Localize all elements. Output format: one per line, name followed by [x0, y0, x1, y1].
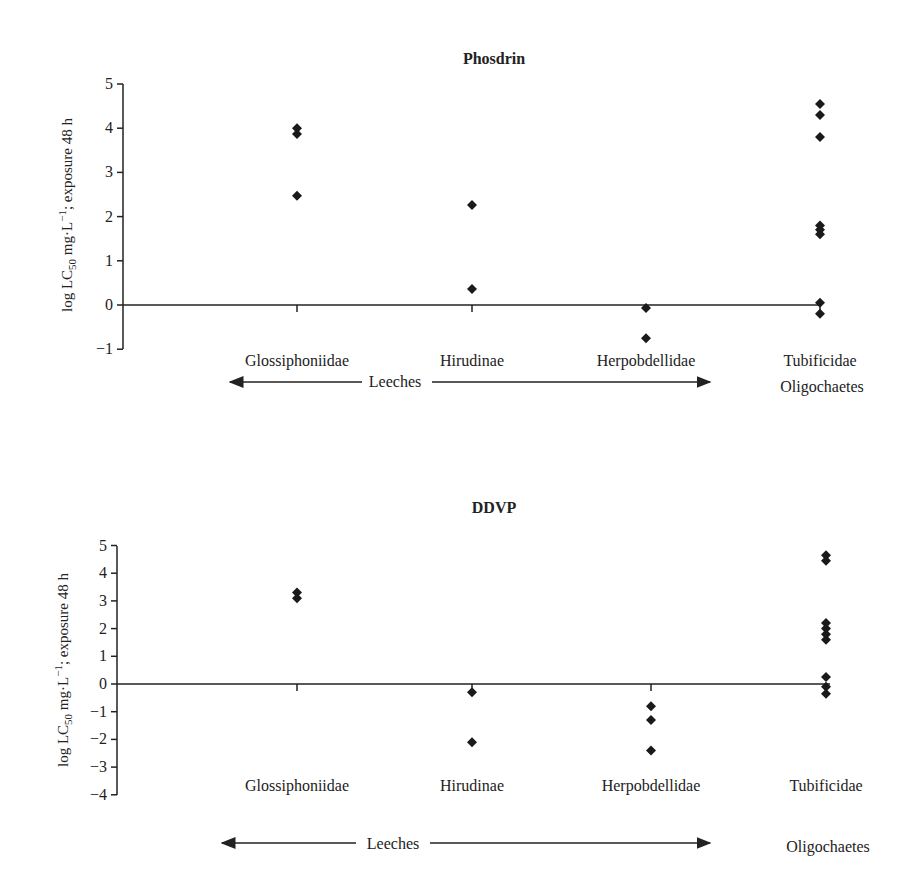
category-label: Hirudinae: [440, 352, 504, 369]
diamond-marker-icon: [815, 110, 825, 120]
y-tick-label: 3: [105, 163, 113, 180]
group-label-oligochaetes: Oligochaetes: [780, 378, 864, 396]
chart-title: Phosdrin: [463, 50, 525, 67]
diamond-marker-icon: [821, 556, 831, 566]
y-tick-label: 5: [99, 537, 107, 554]
diamond-marker-icon: [292, 129, 302, 139]
category-label: Tubificidae: [783, 352, 856, 369]
y-tick-label: 0: [105, 296, 113, 313]
y-tick-label: 1: [99, 647, 107, 664]
group-label-oligochaetes: Oligochaetes: [786, 838, 870, 856]
diamond-marker-icon: [821, 672, 831, 682]
y-tick-label: −4: [90, 786, 107, 803]
diamond-marker-icon: [292, 191, 302, 201]
diamond-marker-icon: [467, 284, 477, 294]
category-labels: GlossiphoniidaeHirudinaeHerpobdellidaeTu…: [245, 684, 863, 795]
y-tick-label: 1: [105, 252, 113, 269]
chart-phosdrin: Phosdrin log LC50 mg·L−1; exposure 48 h …: [56, 50, 864, 396]
diamond-marker-icon: [815, 309, 825, 319]
y-tick-label: 3: [99, 592, 107, 609]
y-tick-label: −3: [90, 758, 107, 775]
diamond-marker-icon: [641, 333, 651, 343]
y-tick-label: 2: [99, 620, 107, 637]
y-axis-label: log LC50 mg·L−1; exposure 48 h: [56, 118, 78, 312]
y-axis-ticks: 543210−1−2−3−4: [90, 537, 117, 803]
y-tick-label: −1: [90, 703, 107, 720]
y-tick-label: −1: [96, 340, 113, 357]
diamond-marker-icon: [646, 715, 656, 725]
svg-text:log LC50 mg·L−1; exposure 48 h: log LC50 mg·L−1; exposure 48 h: [52, 573, 74, 767]
y-tick-label: 4: [99, 564, 107, 581]
diamond-marker-icon: [467, 687, 477, 697]
y-tick-label: 5: [105, 75, 113, 92]
category-label: Herpobdellidae: [597, 352, 696, 370]
diamond-marker-icon: [646, 745, 656, 755]
y-axis-ticks: 543210−1: [96, 75, 123, 357]
y-tick-label: 2: [105, 208, 113, 225]
y-tick-label: 4: [105, 119, 113, 136]
category-label: Tubificidae: [789, 777, 862, 794]
diamond-marker-icon: [815, 298, 825, 308]
group-label-leeches: Leeches: [367, 835, 419, 852]
y-tick-label: −2: [90, 730, 107, 747]
group-label-leeches: Leeches: [369, 373, 421, 390]
y-axis-label: log LC50 mg·L−1; exposure 48 h: [52, 573, 74, 767]
category-label: Glossiphoniidae: [245, 777, 349, 795]
figure: Phosdrin log LC50 mg·L−1; exposure 48 h …: [0, 0, 917, 891]
diamond-marker-icon: [646, 701, 656, 711]
diamond-marker-icon: [821, 689, 831, 699]
diamond-marker-icon: [815, 99, 825, 109]
diamond-marker-icon: [292, 593, 302, 603]
category-label: Hirudinae: [440, 777, 504, 794]
chart-ddvp: DDVP log LC50 mg·L−1; exposure 48 h 5432…: [52, 499, 870, 856]
category-label: Glossiphoniidae: [245, 352, 349, 370]
diamond-marker-icon: [815, 132, 825, 142]
diamond-marker-icon: [467, 737, 477, 747]
svg-text:log LC50 mg·L−1; exposure 48 h: log LC50 mg·L−1; exposure 48 h: [56, 118, 78, 312]
y-tick-label: 0: [99, 675, 107, 692]
category-label: Herpobdellidae: [602, 777, 701, 795]
data-points: [292, 99, 825, 343]
chart-title: DDVP: [472, 499, 517, 516]
diamond-marker-icon: [821, 635, 831, 645]
diamond-marker-icon: [467, 200, 477, 210]
data-points: [292, 550, 831, 755]
category-labels: GlossiphoniidaeHirudinaeHerpobdellidaeTu…: [245, 305, 857, 370]
